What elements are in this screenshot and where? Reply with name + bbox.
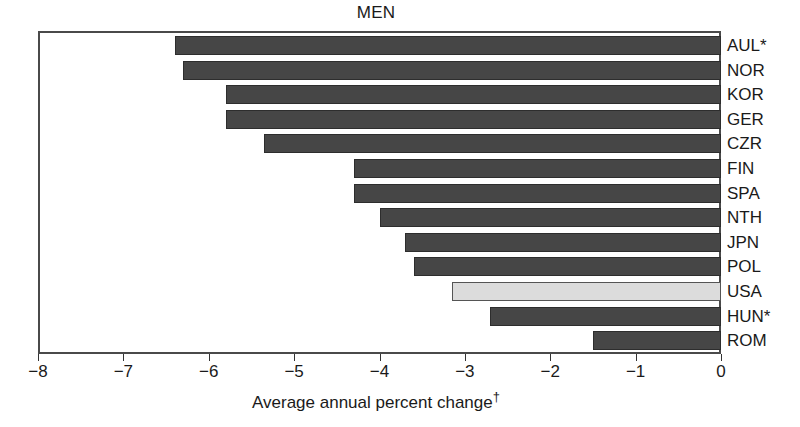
x-tick <box>123 354 124 361</box>
bar-row <box>38 59 721 84</box>
x-tick <box>550 354 551 361</box>
category-label-hun: HUN* <box>727 305 770 330</box>
x-tick <box>209 354 210 361</box>
bar-spa[interactable] <box>354 184 721 203</box>
bar-row <box>38 83 721 108</box>
bar-jpn[interactable] <box>405 233 721 252</box>
bar-row <box>38 305 721 330</box>
x-axis-title-text: Average annual percent change <box>252 393 493 412</box>
category-label-spa: SPA <box>727 182 760 207</box>
bar-fin[interactable] <box>354 159 721 178</box>
category-label-jpn: JPN <box>727 231 759 256</box>
category-label-kor: KOR <box>727 83 764 108</box>
category-label-czr: CZR <box>727 132 762 157</box>
category-labels: AUL*NORKORGERCZRFINSPANTHJPNPOLUSAHUN*RO… <box>727 31 800 354</box>
x-tick-label: −1 <box>614 362 658 382</box>
bar-row <box>38 255 721 280</box>
category-label-ger: GER <box>727 108 764 133</box>
x-axis-title: Average annual percent change† <box>0 389 752 413</box>
x-tick <box>380 354 381 361</box>
category-label-usa: USA <box>727 280 762 305</box>
x-tick <box>38 354 39 361</box>
x-tick-label: −4 <box>358 362 402 382</box>
x-tick-label: 0 <box>699 362 743 382</box>
category-label-fin: FIN <box>727 157 754 182</box>
x-tick-label: −3 <box>443 362 487 382</box>
x-tick <box>294 354 295 361</box>
bar-ger[interactable] <box>226 110 721 129</box>
x-tick-label: −6 <box>187 362 231 382</box>
x-tick <box>465 354 466 361</box>
x-tick-label: −7 <box>101 362 145 382</box>
category-label-pol: POL <box>727 255 761 280</box>
bar-row <box>38 108 721 133</box>
bar-kor[interactable] <box>226 85 721 104</box>
chart-title: MEN <box>0 3 752 23</box>
x-tick <box>636 354 637 361</box>
bar-row <box>38 182 721 207</box>
x-tick-label: −5 <box>272 362 316 382</box>
bar-usa[interactable] <box>452 282 721 301</box>
x-tick-label: −2 <box>528 362 572 382</box>
category-label-rom: ROM <box>727 329 767 354</box>
dagger-symbol: † <box>493 389 500 404</box>
bar-aul[interactable] <box>175 36 721 55</box>
bar-row <box>38 329 721 354</box>
bar-rom[interactable] <box>593 331 721 350</box>
bar-row <box>38 132 721 157</box>
category-label-nor: NOR <box>727 59 765 84</box>
x-axis: −8−7−6−5−4−3−2−10 <box>38 354 721 355</box>
x-tick <box>721 354 722 361</box>
bar-row <box>38 231 721 256</box>
bar-nth[interactable] <box>380 208 722 227</box>
category-label-aul: AUL* <box>727 34 767 59</box>
bar-row <box>38 34 721 59</box>
bar-row <box>38 206 721 231</box>
bar-hun[interactable] <box>490 307 721 326</box>
category-label-nth: NTH <box>727 206 762 231</box>
bar-row <box>38 157 721 182</box>
x-tick-label: −8 <box>16 362 60 382</box>
bar-czr[interactable] <box>264 134 721 153</box>
bar-row <box>38 280 721 305</box>
chart-page: MEN AUL*NORKORGERCZRFINSPANTHJPNPOLUSAHU… <box>0 0 800 427</box>
bars-layer <box>38 31 721 354</box>
bar-pol[interactable] <box>414 257 721 276</box>
bar-nor[interactable] <box>183 61 721 80</box>
